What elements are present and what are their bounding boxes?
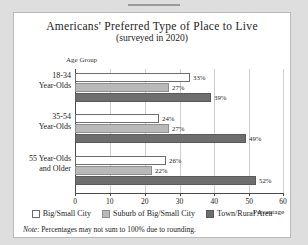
- bar-value-18-34-suburb: 27%: [172, 83, 184, 92]
- tick-60: [283, 193, 284, 196]
- note-prefix: Note: [23, 225, 37, 234]
- ticklabel-50: 50: [245, 197, 253, 206]
- bar-55-older-city: [75, 156, 166, 165]
- bar-18-34-suburb: [75, 83, 169, 92]
- chart-subtitle: (surveyed in 2020): [14, 33, 290, 44]
- bar-18-34-rural: [75, 93, 211, 102]
- legend-swatch-icon-rural: [206, 210, 214, 218]
- bar-55-older-suburb: [75, 166, 152, 175]
- bar-value-55-older-suburb: 22%: [155, 166, 167, 175]
- tick-10: [110, 193, 111, 196]
- ticklabel-20: 20: [141, 197, 149, 206]
- bar-35-54-city: [75, 114, 159, 123]
- legend-swatch-icon-city: [32, 210, 40, 218]
- group-label-18-34: 18-34 Year-Olds: [39, 71, 71, 90]
- yaxis-title: Age Group: [66, 56, 97, 64]
- ticklabel-60: 60: [279, 197, 287, 206]
- tick-40: [214, 193, 215, 196]
- group-label-line2: Year-Olds: [39, 81, 71, 90]
- group-label-column: 18-34 Year-Olds 35-54 Year-Olds 55 Year-…: [14, 69, 71, 193]
- chart-page: Americans' Preferred Type of Place to Li…: [0, 0, 308, 245]
- gridline-60: [283, 69, 284, 193]
- group-label-line1: 35-54: [52, 112, 71, 121]
- ticklabel-0: 0: [73, 197, 77, 206]
- bar-35-54-rural: [75, 134, 246, 143]
- note-text: : Percentages may not sum to 100% due to…: [37, 225, 196, 234]
- chart-note: Note: Percentages may not sum to 100% du…: [23, 225, 196, 234]
- bar-value-18-34-rural: 39%: [214, 93, 226, 102]
- chart-panel: Americans' Preferred Type of Place to Li…: [13, 12, 291, 238]
- group-label-line1: 18-34: [52, 71, 71, 80]
- bar-35-54-suburb: [75, 124, 169, 133]
- ticklabel-10: 10: [106, 197, 114, 206]
- bar-value-35-54-rural: 49%: [249, 134, 261, 143]
- bar-value-18-34-city: 33%: [193, 73, 205, 82]
- group-label-35-54: 35-54 Year-Olds: [39, 112, 71, 131]
- bar-value-35-54-suburb: 27%: [172, 124, 184, 133]
- legend-item-town-rural: Town/Rural Area: [206, 209, 272, 218]
- legend-item-suburb: Suburb of Big/Small City: [102, 209, 195, 218]
- tick-20: [145, 193, 146, 196]
- group-label-line2: Year-Olds: [39, 122, 71, 131]
- gridline-50: [249, 69, 250, 193]
- gridline-40: [214, 69, 215, 193]
- bar-value-55-older-city: 26%: [169, 156, 181, 165]
- ticklabel-30: 30: [176, 197, 184, 206]
- legend-label-rural: Town/Rural Area: [217, 209, 272, 218]
- legend-swatch-icon-suburb: [102, 210, 110, 218]
- group-label-line1: 55 Year-Olds: [29, 154, 71, 163]
- top-rule-decoration: [128, 4, 180, 6]
- legend-label-suburb: Suburb of Big/Small City: [113, 209, 195, 218]
- chart-title: Americans' Preferred Type of Place to Li…: [14, 20, 290, 33]
- tick-0: [75, 193, 76, 196]
- bar-value-35-54-city: 24%: [162, 114, 174, 123]
- legend-item-big-small-city: Big/Small City: [32, 209, 91, 218]
- group-label-line2: and Older: [39, 164, 71, 173]
- bar-55-older-rural: [75, 176, 256, 185]
- legend-label-city: Big/Small City: [43, 209, 91, 218]
- bar-18-34-city: [75, 73, 190, 82]
- group-label-55-older: 55 Year-Olds and Older: [29, 154, 71, 173]
- ticklabel-40: 40: [211, 197, 219, 206]
- tick-50: [249, 193, 250, 196]
- bar-value-55-older-rural: 52%: [259, 176, 271, 185]
- plot-area: 33% 27% 39% 24% 27% 49% 26% 22% 52%: [75, 69, 284, 193]
- tick-30: [180, 193, 181, 196]
- chart-legend: Big/Small City Suburb of Big/Small City …: [14, 209, 290, 218]
